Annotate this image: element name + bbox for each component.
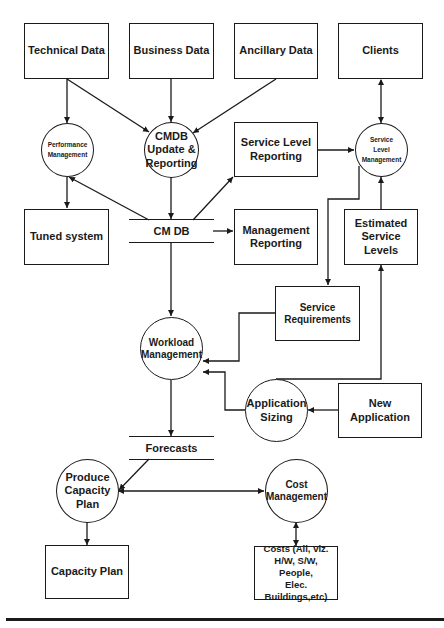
cmdb-update-label: CMDB Update & Reporting [146,130,198,170]
ancillary-data-label: Ancillary Data [239,44,312,57]
application-sizing-label: Application Sizing [247,397,307,423]
cost-management-label: Cost Management [266,479,327,503]
workload-management-process: Workload Management [140,317,203,380]
service-requirements-label: Service Requirements [284,302,351,326]
service-requirements-box: Service Requirements [275,286,360,341]
performance-management-process: Performance Management [41,123,94,177]
cmdb-update-process: CMDB Update & Reporting [144,122,199,178]
estimated-service-levels-label: Estimated Service Levels [347,217,415,257]
forecasts-store: Forecasts [129,436,214,460]
new-application-label: New Application [341,397,419,423]
technical-data-label: Technical Data [28,44,105,57]
business-data-box: Business Data [129,23,214,79]
produce-capacity-plan-label: Produce Capacity Plan [65,471,111,511]
capacity-plan-label: Capacity Plan [51,565,123,578]
ancillary-data-box: Ancillary Data [234,23,318,79]
management-reporting-label: Management Reporting [242,224,309,250]
costs-label: Costs (All, viz. H/W, S/W, People, Elec.… [257,543,335,602]
cost-management-process: Cost Management [265,459,328,523]
tuned-system-label: Tuned system [30,230,103,243]
business-data-label: Business Data [134,44,210,57]
service-level-management-process: Service Level Management [355,123,408,177]
service-level-reporting-label: Service Level Reporting [241,136,311,162]
capacity-plan-box: Capacity Plan [45,545,129,599]
produce-capacity-plan-process: Produce Capacity Plan [56,459,119,523]
estimated-service-levels-box: Estimated Service Levels [344,209,418,265]
forecasts-label: Forecasts [146,442,198,454]
costs-box: Costs (All, viz. H/W, S/W, People, Elec.… [254,546,338,600]
technical-data-box: Technical Data [24,23,109,79]
connector-lines [0,0,444,628]
performance-management-label: Performance Management [48,140,88,160]
workload-management-label: Workload Management [141,337,202,361]
management-reporting-box: Management Reporting [234,209,318,265]
cm-db-store: CM DB [129,219,214,243]
new-application-box: New Application [338,383,422,438]
clients-box: Clients [338,23,423,79]
service-level-management-label: Service Level Management [362,135,402,164]
service-level-reporting-box: Service Level Reporting [234,122,318,177]
application-sizing-process: Application Sizing [245,379,308,442]
bottom-rule [6,618,444,621]
cm-db-label: CM DB [153,225,189,237]
clients-label: Clients [362,44,399,57]
tuned-system-box: Tuned system [24,209,109,265]
